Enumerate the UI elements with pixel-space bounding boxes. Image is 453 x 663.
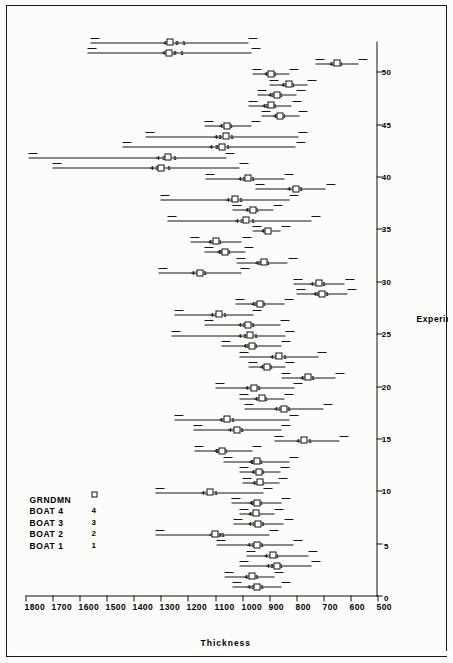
range-cap-low [278,477,287,478]
range-cap-low [280,467,289,468]
boat-1-marker: 1 [180,49,183,58]
boat-4-marker: 4 [238,175,241,184]
grand-mean-marker [165,49,172,56]
boat-4-marker: 4 [235,217,238,226]
boat-1-marker: 1 [213,489,216,498]
thickness-tick [350,595,351,601]
boat-4-marker: 4 [244,573,247,582]
grand-mean-marker [196,269,203,276]
boat-4-marker: 4 [249,457,252,466]
grand-mean-marker [166,38,173,45]
boat-4-marker: 4 [208,238,211,247]
experiment-tick-label: 10 [381,486,391,495]
boat-1-marker: 1 [308,436,311,445]
grand-mean-marker [253,457,260,464]
grand-mean-marker [264,227,271,234]
grand-mean-marker [164,153,171,160]
range-cap-high [233,519,242,520]
range-cap-low [252,309,261,310]
experiment-tick-label: 0 [384,594,389,603]
boat-4-marker: 4 [245,206,248,215]
boat-1-marker: 1 [231,416,234,425]
grand-mean-marker [252,509,259,516]
range-cap-low [284,393,293,394]
grand-mean-marker [248,342,255,349]
grand-mean-marker [267,70,274,77]
grand-mean-marker [260,258,267,265]
range-cap-high [315,58,324,59]
boat-4-marker: 4 [264,552,267,561]
range-cap-low [242,236,251,237]
range-cap-high [193,425,202,426]
range-cap-high [293,278,302,279]
range-cap-low [308,550,317,551]
grand-mean-marker [250,384,257,391]
range-cap-low [252,446,261,447]
grand-mean-marker [244,174,251,181]
range-cap-high [194,446,203,447]
grand-mean-marker [248,572,255,579]
boat-4-marker: 4 [274,405,277,414]
grand-mean-marker [273,562,280,569]
thickness-tick [242,595,243,601]
range-cap-high [274,435,283,436]
grand-mean-marker [223,415,230,422]
range-cap-high [215,383,224,384]
boat-4-marker: 4 [247,541,250,550]
grand-mean-marker [231,195,238,202]
range-cap-high [224,571,233,572]
range-cap-low [285,330,294,331]
range-cap-low [289,69,298,70]
boat-4-marker: 4 [150,164,153,173]
grand-mean-marker [275,352,282,359]
boat-4-marker: 4 [249,499,252,508]
range-cap-low [339,435,348,436]
boat-4-marker: 4 [161,49,164,58]
boat-1-marker: 1 [173,154,176,163]
experiment-tick [376,595,382,596]
boat-4-marker: 4 [263,70,266,79]
grand-mean-marker [304,373,311,380]
range-cap-low [281,425,290,426]
range-cap-low [317,351,326,352]
grand-mean-marker [215,310,222,317]
range-cap-low [281,341,290,342]
range-cap-low [298,111,307,112]
range-cap-low [289,414,298,415]
range-cap-low [296,90,305,91]
grand-mean-marker [222,132,229,139]
range-cap-high [239,467,248,468]
range-line [28,157,226,158]
range-cap-low [225,152,234,153]
plot-area: 5006007008009001000110012001300140015001… [25,41,377,596]
grand-mean-marker [292,185,299,192]
grand-mean-marker [218,143,225,150]
boat-4-marker: 4 [268,91,271,100]
grand-mean-marker [267,101,274,108]
range-cap-high [205,173,214,174]
thickness-tick [133,595,134,601]
scan-edge [13,651,453,656]
range-cap-high [174,309,183,310]
thickness-tick [79,595,80,601]
rotated-figure-wrapper: BOAT 11BOAT 22BOAT 33BOAT 44GRNDMN 50060… [7,6,448,658]
boat-4-marker: 4 [259,363,262,372]
range-cap-high [244,404,253,405]
range-cap-high [174,414,183,415]
boat-4-marker: 4 [296,436,299,445]
boat-1-marker: 1 [223,311,226,320]
range-cap-high [221,341,230,342]
grand-mean-marker [221,248,228,255]
grand-mean-marker [244,321,251,328]
thickness-tick [215,595,216,601]
range-cap-high [239,351,248,352]
range-cap-high [235,299,244,300]
boat-3-marker: 3 [269,562,272,571]
range-cap-high [90,37,99,38]
range-cap-low [280,320,289,321]
range-line [160,199,289,200]
range-cap-low [244,247,253,248]
experiment-tick [376,543,382,544]
grand-mean-marker [253,583,260,590]
range-cap-low [289,456,298,457]
